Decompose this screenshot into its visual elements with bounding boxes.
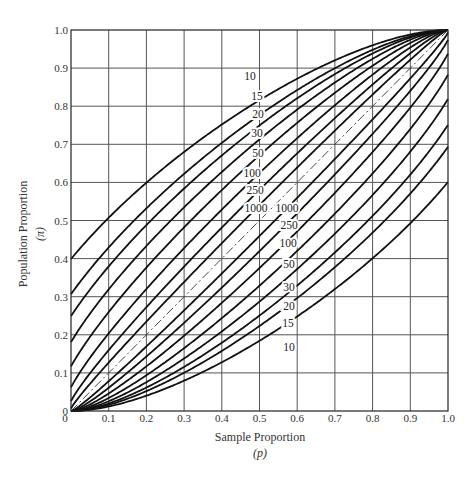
x-tick-label: 0.9 (403, 412, 417, 424)
lower-curve-label: 10 (283, 341, 295, 353)
x-tick-label: 0.4 (215, 412, 229, 424)
lower-curve-label: 20 (283, 300, 295, 312)
x-tick-label: 0.5 (253, 412, 267, 424)
upper-curve-label: 250 (246, 184, 264, 196)
x-tick-label: 0.3 (177, 412, 191, 424)
upper-curve-label: 100 (243, 167, 261, 179)
x-tick-label: 0.1 (102, 412, 116, 424)
y-tick-label: 0.3 (54, 291, 68, 303)
y-axis-title: Population Proportion (16, 181, 30, 287)
y-tick-label: 0 (63, 405, 69, 417)
y-tick-label: 0.8 (54, 100, 68, 112)
y-axis-symbol: (π) (33, 227, 47, 241)
y-tick-label: 0.5 (54, 215, 68, 227)
upper-curve-label: 15 (251, 90, 263, 102)
lower-curve-label: 1000 (276, 202, 299, 214)
x-axis-ticks: 00.10.20.30.40.50.60.70.80.91.0 (62, 412, 455, 424)
lower-curve-label: 100 (279, 237, 297, 249)
y-tick-label: 0.9 (54, 62, 68, 74)
y-tick-label: 0.2 (54, 329, 68, 341)
lower-curve-label: 15 (282, 317, 294, 329)
upper-curve-label: 20 (252, 108, 264, 120)
x-tick-label: 1.0 (441, 412, 455, 424)
upper-curve-label: 50 (252, 147, 264, 159)
lower-curve-label: 250 (280, 219, 298, 231)
x-axis-symbol: (p) (253, 446, 267, 460)
y-axis-ticks: 00.10.20.30.40.50.60.70.80.91.0 (54, 24, 68, 417)
x-axis-title: Sample Proportion (215, 430, 305, 444)
y-tick-label: 0.6 (54, 176, 68, 188)
upper-curve-label: 1000 (245, 202, 268, 214)
x-tick-label: 0.7 (328, 412, 342, 424)
x-tick-label: 0.6 (290, 412, 304, 424)
upper-curve-label: 10 (244, 70, 256, 82)
y-tick-label: 1.0 (54, 24, 68, 36)
y-tick-label: 0.7 (54, 138, 68, 150)
lower-curve-label: 50 (283, 258, 295, 270)
x-tick-label: 0.8 (366, 412, 380, 424)
y-tick-label: 0.1 (54, 367, 68, 379)
confidence-belt-chart: 00.10.20.30.40.50.60.70.80.91.0 00.10.20… (0, 0, 476, 479)
upper-curve-label: 30 (251, 127, 263, 139)
lower-curve-label: 30 (283, 281, 295, 293)
curve-labels: 1015203050100250100010002501005030201510 (243, 70, 298, 353)
y-tick-label: 0.4 (54, 253, 68, 265)
x-tick-label: 0.2 (140, 412, 154, 424)
